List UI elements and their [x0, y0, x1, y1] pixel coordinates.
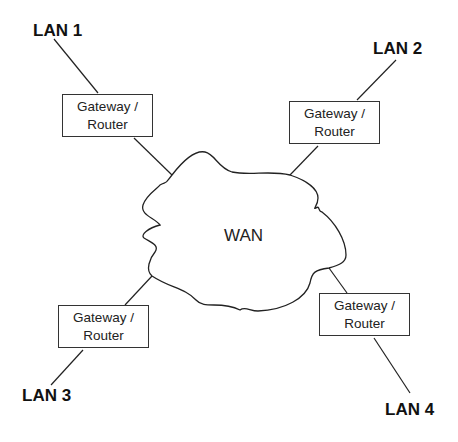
- link-gateway3-lan3: [51, 350, 83, 385]
- link-lan2-gateway2: [357, 60, 396, 100]
- gateway-router-3-line1: Gateway /: [73, 309, 134, 327]
- link-gateway1-wan: [134, 138, 172, 175]
- link-lan1-gateway1: [54, 39, 98, 93]
- lan-4-label: LAN 4: [385, 401, 434, 418]
- gateway-router-4-line2: Router: [344, 315, 385, 333]
- gateway-router-2: Gateway / Router: [289, 101, 380, 144]
- diagram-canvas: [0, 0, 458, 442]
- gateway-router-4: Gateway / Router: [319, 293, 410, 336]
- gateway-router-1: Gateway / Router: [62, 94, 153, 137]
- lan-1-label: LAN 1: [33, 22, 82, 39]
- wan-label: WAN: [224, 227, 263, 244]
- gateway-router-2-line1: Gateway /: [304, 105, 365, 123]
- link-gateway2-wan: [290, 146, 318, 175]
- lan-3-label: LAN 3: [22, 387, 71, 404]
- gateway-router-3: Gateway / Router: [58, 305, 149, 348]
- gateway-router-1-line2: Router: [87, 116, 128, 134]
- link-wan-gateway4: [329, 268, 347, 293]
- gateway-router-3-line2: Router: [83, 327, 124, 345]
- lan-2-label: LAN 2: [373, 40, 422, 57]
- link-gateway4-lan4: [374, 338, 410, 393]
- gateway-router-2-line2: Router: [314, 123, 355, 141]
- link-wan-gateway3: [125, 276, 152, 305]
- gateway-router-4-line1: Gateway /: [334, 297, 395, 315]
- gateway-router-1-line1: Gateway /: [77, 98, 138, 116]
